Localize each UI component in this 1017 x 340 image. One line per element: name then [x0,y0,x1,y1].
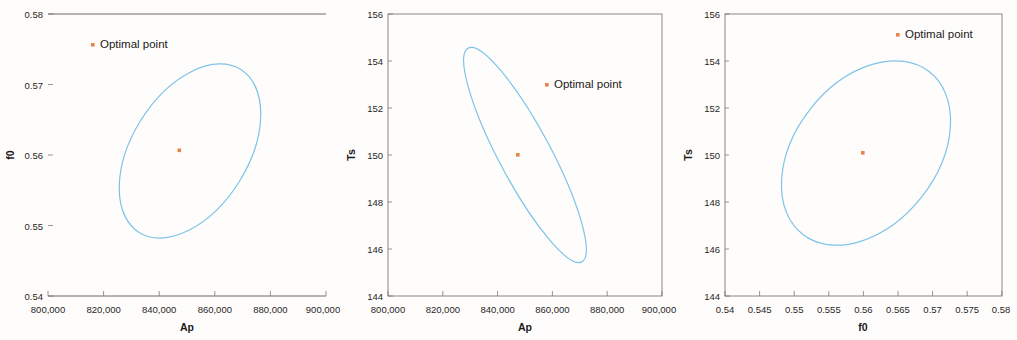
y-axis-title: Ts [345,149,357,161]
chart-panel-ts-vs-f0: 156 154 152 150 148 146 144 0.54 0.545 0… [677,0,1017,340]
x-tick-label: 800,000 [371,304,405,315]
y-tick-label: 0.56 [25,150,44,161]
x-axis-title: Ap [518,321,532,333]
confidence-ellipse [90,39,290,263]
x-tick-label: 880,000 [590,304,624,315]
y-axis-title: f0 [4,150,16,159]
legend-marker-icon [545,83,549,87]
x-tick-label: 0.54 [716,304,735,315]
y-tick-label: 144 [367,291,383,302]
y-tick-label: 146 [704,244,720,255]
y-tick-label: 150 [704,150,720,161]
x-axis-title: f0 [858,321,867,333]
x-tick-label: 0.55 [785,304,804,315]
y-tick-label: 150 [367,150,383,161]
chart-panel-f0-vs-ap: 0.58 0.57 0.56 0.55 0.54 800,000 820,000… [0,0,340,340]
x-tick-label: 0.57 [923,304,942,315]
chart-panel-ts-vs-ap: 156 154 152 150 148 146 144 800,000 820,… [340,0,677,340]
y-tick-label: 0.57 [25,80,44,91]
x-axis-title: Ap [180,321,194,333]
x-tick-label: 0.565 [886,304,910,315]
x-tick-label: 840,000 [480,304,514,315]
y-tick-marks [725,14,730,296]
x-tick-label: 840,000 [142,304,176,315]
x-tick-label: 900,000 [306,304,340,315]
y-tick-label: 144 [704,291,720,302]
y-tick-marks [48,14,54,296]
x-tick-label: 0.56 [854,304,873,315]
x-tick-label: 860,000 [198,304,232,315]
y-tick-label: 146 [367,244,383,255]
x-tick-label: 820,000 [426,304,460,315]
legend: Optimal point [896,28,974,40]
y-tick-label: 154 [704,56,720,67]
x-tick-marks [725,291,1002,296]
legend: Optimal point [91,38,169,50]
x-tick-label: 860,000 [535,304,569,315]
confidence-ellipse-figure: 0.58 0.57 0.56 0.55 0.54 800,000 820,000… [0,0,1017,340]
x-tick-label: 800,000 [31,304,65,315]
x-tick-label: 900,000 [642,304,676,315]
legend-marker-icon [896,33,900,37]
optimal-point-marker [861,151,865,155]
y-tick-label: 0.58 [25,9,44,20]
x-tick-marks [388,291,662,296]
x-tick-label: 0.575 [955,304,979,315]
y-tick-label: 156 [367,9,383,20]
y-tick-label: 148 [367,197,383,208]
legend-label: Optimal point [100,38,169,50]
confidence-ellipse [747,28,986,278]
legend-label: Optimal point [554,78,623,90]
legend-label: Optimal point [905,28,974,40]
y-axis-title: Ts [682,149,694,161]
y-tick-label: 154 [367,56,383,67]
legend-marker-icon [91,43,95,47]
optimal-point-marker [178,149,182,153]
y-tick-label: 148 [704,197,720,208]
x-tick-label: 0.555 [817,304,841,315]
legend: Optimal point [545,78,623,90]
x-tick-label: 0.545 [748,304,772,315]
y-tick-label: 152 [367,103,383,114]
y-tick-label: 156 [704,9,720,20]
x-tick-marks [48,291,326,296]
x-tick-label: 0.58 [992,304,1011,315]
y-tick-marks [388,14,393,296]
x-tick-label: 880,000 [253,304,287,315]
optimal-point-marker [516,153,520,157]
x-tick-label: 820,000 [86,304,120,315]
y-tick-label: 152 [704,103,720,114]
y-tick-label: 0.54 [25,291,44,302]
y-tick-label: 0.55 [25,221,44,232]
confidence-ellipse [445,36,605,274]
